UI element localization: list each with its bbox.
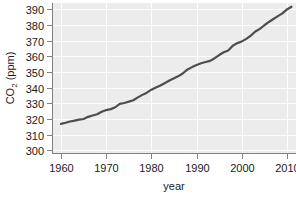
x-tick-label: 2000	[230, 162, 254, 174]
y-axis-title-main: CO	[4, 87, 16, 104]
y-tick-label: 340	[26, 83, 44, 95]
x-tick-label: 2010	[275, 162, 296, 174]
chart-canvas: 300310320330340350360370380390 196019701…	[0, 0, 296, 198]
x-tick-label: 1970	[94, 162, 118, 174]
y-tick-label: 380	[26, 20, 44, 32]
y-tick-label: 360	[26, 51, 44, 63]
x-axis-tick-labels: 196019701980199020002010	[49, 162, 296, 174]
y-tick-label: 300	[26, 145, 44, 157]
y-tick-label: 310	[26, 130, 44, 142]
y-axis-title: CO2 (ppm)	[4, 52, 19, 105]
x-tick-label: 1980	[139, 162, 163, 174]
x-tick-label: 1990	[185, 162, 209, 174]
x-axis-tick-marks	[62, 154, 288, 159]
y-axis-tick-labels: 300310320330340350360370380390	[26, 4, 44, 157]
co2-line-chart: 300310320330340350360370380390 196019701…	[0, 0, 296, 198]
y-axis-title-units: (ppm)	[4, 52, 16, 84]
y-tick-label: 330	[26, 98, 44, 110]
svg-text:CO2 (ppm): CO2 (ppm)	[4, 52, 19, 105]
x-tick-label: 1960	[49, 162, 73, 174]
y-axis-tick-marks	[47, 10, 52, 151]
y-tick-label: 390	[26, 4, 44, 16]
x-axis-title: year	[163, 180, 185, 192]
y-tick-label: 370	[26, 36, 44, 48]
y-tick-label: 350	[26, 67, 44, 79]
y-tick-label: 320	[26, 114, 44, 126]
